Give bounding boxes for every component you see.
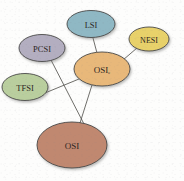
node-lsi[interactable]: LSI (67, 11, 115, 38)
node-label-subscript-osie: e (108, 69, 110, 74)
node-label-lsi: LSI (85, 20, 98, 30)
node-osi[interactable]: OSI (37, 122, 107, 168)
node-nesi[interactable]: NESI (129, 27, 169, 51)
nodes-layer: LSINESIPCSITFSIOSIeOSI (2, 11, 169, 169)
node-pcsi[interactable]: PCSI (19, 35, 65, 62)
node-label-pcsi: PCSI (33, 44, 51, 54)
node-label-osie: OSIe (94, 65, 111, 75)
edge-nesi-osie (123, 48, 137, 60)
node-osie[interactable]: OSIe (74, 52, 130, 86)
node-label-nesi: NESI (140, 35, 158, 44)
diagram-canvas: LSINESIPCSITFSIOSIeOSI (0, 0, 184, 181)
node-label-osi: OSI (65, 141, 80, 151)
node-label-tfsi: TFSI (16, 83, 34, 93)
edge-osie-osi (80, 85, 92, 123)
node-tfsi[interactable]: TFSI (2, 74, 48, 101)
edge-lsi-osie (93, 38, 97, 53)
diagram-figure: LSINESIPCSITFSIOSIeOSI (0, 0, 184, 181)
